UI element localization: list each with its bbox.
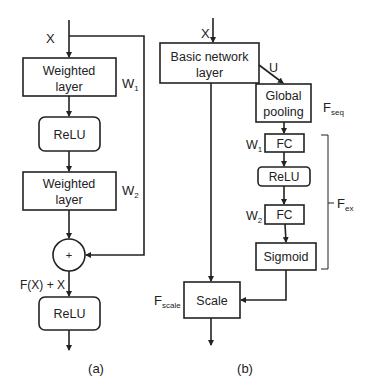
global-pooling-line2: pooling xyxy=(263,105,303,119)
weighted-layer-1-line1: Weighted xyxy=(43,64,96,78)
weight-w1-label: W1 xyxy=(122,76,139,93)
u-label: U xyxy=(269,61,278,75)
weighted-layer-1-line2: layer xyxy=(55,80,82,94)
weight-w2-label: W2 xyxy=(122,183,139,200)
sigmoid-to-scale-arrow xyxy=(241,270,286,300)
fc-2-label: FC xyxy=(277,208,293,222)
relu-label-b: ReLU xyxy=(269,170,300,184)
fex-bracket xyxy=(321,135,334,269)
weighted-layer-2-line1: Weighted xyxy=(43,177,96,191)
caption-b: (b) xyxy=(237,361,253,376)
sum-symbol: + xyxy=(66,249,72,261)
diagram-canvas: X Weighted layer W1 ReLU Weighted layer … xyxy=(0,0,370,391)
input-label-a: X xyxy=(46,31,55,46)
sigmoid-label: Sigmoid xyxy=(263,250,308,264)
fscale-label: Fscale xyxy=(154,293,181,310)
residual-block-labels: X Weighted layer W1 ReLU Weighted layer … xyxy=(20,31,139,376)
fex-label: Fex xyxy=(337,196,353,213)
input-label-b: X xyxy=(201,26,210,41)
weighted-layer-2-line2: layer xyxy=(55,193,82,207)
fc-1-label: FC xyxy=(277,137,293,151)
basic-layer-line2: layer xyxy=(196,66,223,80)
fseq-label: Fseq xyxy=(323,100,344,117)
se-block-labels: X Basic network layer U Global pooling F… xyxy=(154,26,353,376)
scale-label: Scale xyxy=(196,294,227,308)
se-block-diagram xyxy=(160,18,334,345)
sum-label: F(X) + X xyxy=(20,278,65,292)
relu-2-label: ReLU xyxy=(54,307,86,321)
arrow xyxy=(285,224,286,242)
relu-1-label: ReLU xyxy=(54,128,86,142)
weight-w1-b-label: W1 xyxy=(246,138,263,154)
caption-a: (a) xyxy=(88,361,104,376)
basic-layer-line1: Basic network xyxy=(171,50,250,64)
global-pooling-line1: Global xyxy=(265,89,301,103)
weight-w2-b-label: W2 xyxy=(246,209,263,225)
